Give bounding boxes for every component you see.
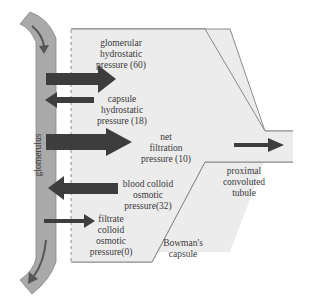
label-line: pressure(0) xyxy=(86,247,136,258)
blood-colloid-label: blood colloid osmotic pressure(32) xyxy=(116,179,180,212)
bowmans-capsule-label: Bowman's capsule xyxy=(158,238,208,260)
label-line: pressure(32) xyxy=(116,201,180,212)
label-line: osmotic xyxy=(86,236,136,247)
label-line: pressure (10) xyxy=(136,154,196,165)
label-line: osmotic xyxy=(116,190,180,201)
label-line: tubule xyxy=(214,188,274,199)
capsule-hydrostatic-label: capsule hydrostatic pressure (18) xyxy=(94,94,150,127)
glomerular-hydrostatic-label: glomerular hydrostatic pressure (60) xyxy=(86,38,156,71)
glomerulus-label: glomerulus xyxy=(33,127,43,183)
label-line: colloid xyxy=(86,225,136,236)
label-line: pressure (18) xyxy=(94,116,150,127)
proximal-tubule-label: proximal convoluted tubule xyxy=(214,166,274,199)
label-line: glomerular xyxy=(86,38,156,49)
label-line: Bowman's xyxy=(158,238,208,249)
filtrate-colloid-label: filtrate colloid osmotic pressure(0) xyxy=(86,214,136,258)
label-line: convoluted xyxy=(214,177,274,188)
label-line: capsule xyxy=(158,249,208,260)
label-line: filtration xyxy=(136,143,196,154)
label-line: net xyxy=(136,132,196,143)
label-line: blood colloid xyxy=(116,179,180,190)
label-line: pressure (60) xyxy=(86,60,156,71)
net-filtration-label: net filtration pressure (10) xyxy=(136,132,196,165)
label-line: filtrate xyxy=(86,214,136,225)
label-line: hydrostatic xyxy=(86,49,156,60)
label-line: hydrostatic xyxy=(94,105,150,116)
label-line: capsule xyxy=(94,94,150,105)
label-line: proximal xyxy=(214,166,274,177)
